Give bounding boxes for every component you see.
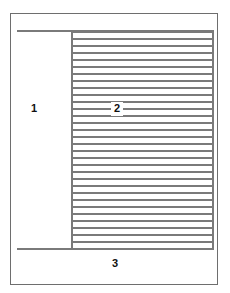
- hatch-line: [73, 115, 212, 117]
- hatch-line: [73, 143, 212, 145]
- hatch-line: [73, 45, 212, 47]
- hatch-line: [73, 150, 212, 152]
- hatch-line: [73, 122, 212, 124]
- hatch-line: [73, 80, 212, 82]
- reference-numeral-2: 2: [111, 102, 123, 116]
- left-vertical-divider: [71, 30, 73, 250]
- hatch-line: [73, 164, 212, 166]
- hatch-line: [73, 129, 212, 131]
- hatch-line: [73, 171, 212, 173]
- hatch-line: [73, 185, 212, 187]
- reference-numeral-3: 3: [112, 258, 118, 269]
- hatch-line: [73, 213, 212, 215]
- bottom-boundary-rule: [17, 248, 214, 250]
- hatch-line: [73, 94, 212, 96]
- hatch-line: [73, 136, 212, 138]
- reference-numeral-1: 1: [31, 103, 37, 114]
- hatch-line: [73, 66, 212, 68]
- hatch-line: [73, 241, 212, 243]
- hatch-line: [73, 178, 212, 180]
- top-boundary-rule: [17, 30, 214, 32]
- hatch-line: [73, 87, 212, 89]
- right-vertical-divider: [212, 30, 214, 250]
- hatch-line: [73, 59, 212, 61]
- hatch-line: [73, 157, 212, 159]
- figure-canvas: 1 2 3: [0, 0, 230, 293]
- hatch-line: [73, 199, 212, 201]
- hatch-line: [73, 206, 212, 208]
- hatch-line: [73, 38, 212, 40]
- hatch-line: [73, 192, 212, 194]
- hatch-line: [73, 234, 212, 236]
- hatch-line: [73, 52, 212, 54]
- hatch-line: [73, 220, 212, 222]
- hatch-line: [73, 108, 212, 110]
- hatched-section-region: [73, 31, 212, 249]
- hatch-line: [73, 73, 212, 75]
- hatch-line: [73, 101, 212, 103]
- hatch-line: [73, 227, 212, 229]
